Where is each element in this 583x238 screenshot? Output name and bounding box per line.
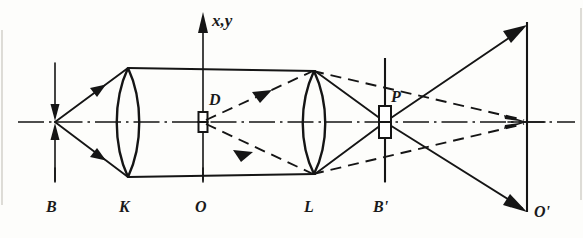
scan-edge-artifacts [2, 8, 581, 205]
baseline-labels: B K O L B' O' [45, 198, 551, 220]
ray-K-to-L-upper [128, 68, 315, 71]
axis-label-xy: x,y [211, 11, 233, 30]
ray-D-to-L-lower-arrow [233, 150, 253, 162]
object-arrow-upper-head [51, 104, 60, 121]
ray-P-to-image-bottom [385, 122, 522, 208]
ray-K-to-L-lower [128, 174, 315, 177]
aperture-D-label: D [208, 91, 221, 108]
label-K: K [118, 198, 131, 215]
label-O-prime: O' [534, 203, 551, 220]
label-O: O [195, 198, 207, 215]
label-L: L [303, 198, 314, 215]
ray-L-upper-dashed-to-axis [313, 71, 524, 120]
optics-canvas: x,y D [0, 0, 583, 238]
ray-D-to-L-lower [206, 124, 313, 174]
label-B: B [45, 198, 57, 215]
vertical-axis-arrowhead [198, 12, 208, 33]
aperture-D-upper-blade [199, 112, 208, 122]
aperture-D-lower-blade [199, 122, 208, 132]
ray-D-to-L-upper-arrow [252, 90, 272, 103]
ray-P-to-image-bottom-arrow [503, 194, 527, 212]
aperture-P-upper-blade [379, 106, 391, 122]
ray-P-to-image-top [385, 29, 522, 122]
label-B-prime: B' [372, 198, 389, 215]
optical-diagram: x,y D [0, 0, 583, 238]
aperture-P-lower-blade [379, 122, 391, 138]
ray-L-lower-dashed-to-axis [313, 124, 524, 174]
aperture-P-label: P [390, 88, 401, 105]
